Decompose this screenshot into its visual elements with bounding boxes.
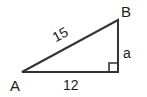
triangle-outline [22, 20, 118, 72]
side-label-vertical: a [123, 46, 131, 60]
vertex-label-a: A [10, 78, 20, 93]
vertex-label-b: B [121, 4, 131, 19]
triangle-diagram: B A a 12 15 [0, 0, 147, 97]
side-label-base: 12 [63, 78, 79, 92]
right-angle-square-icon [109, 63, 118, 72]
